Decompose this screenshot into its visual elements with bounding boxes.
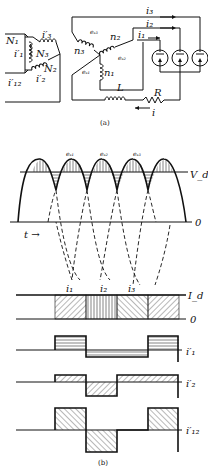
- primary-delta: N₁ N₃ N₂ i′₃ i′₁ i′₂ i′₁₂: [5, 29, 60, 102]
- label-ip12: i′₁₂: [8, 77, 22, 88]
- label-ip2-wave: i′₂: [186, 378, 195, 389]
- label-L: L: [116, 82, 124, 93]
- label-n1: n₁: [104, 67, 114, 78]
- label-N1: N₁: [5, 35, 19, 46]
- label-i: i: [152, 107, 155, 118]
- label-i2: i₂: [146, 18, 153, 29]
- label-vd: V_d: [190, 169, 208, 181]
- label-N3: N₃: [35, 48, 49, 59]
- label-zero-i: 0: [190, 314, 197, 325]
- label-ip3: i′₃: [42, 29, 51, 40]
- label-R: R: [153, 87, 162, 98]
- label-Id: I_d: [187, 290, 203, 302]
- rectifier-diagram: N₁ N₃ N₂ i′₃ i′₁ i′₂ i′₁₂: [0, 0, 208, 469]
- label-i1: i₁: [138, 29, 145, 40]
- caption-a: (a): [100, 119, 110, 127]
- label-es2: eₛ₂: [118, 54, 127, 61]
- label-i1-block: i₁: [66, 283, 73, 294]
- voltage-waveforms: eₛ₁ eₛ₂ eₛ₃ V_d 0 t →: [10, 150, 208, 285]
- label-i3-block: i₃: [128, 283, 135, 294]
- label-es3-wave: eₛ₃: [133, 150, 142, 157]
- label-ip12-wave: i′₁₂: [186, 425, 200, 436]
- label-zero-v: 0: [195, 217, 202, 228]
- label-es3: eₛ₃: [90, 28, 99, 35]
- label-ip1: i′₁: [14, 48, 23, 59]
- secondary-circuit: i₃ i₂ i₁ i n₃ n₂ n₁ eₛ₃ eₛ₂ eₛ₁ L R (a): [72, 5, 208, 127]
- label-es1: eₛ₁: [82, 68, 90, 75]
- label-i3: i₃: [146, 5, 153, 16]
- label-ip1-wave: i′₁: [186, 346, 195, 357]
- label-ip2: i′₂: [36, 73, 45, 84]
- current-waveforms: i₁ i₂ i₃ I_d 0 i′₁ i′₂ i′₁₂ (b): [16, 283, 203, 467]
- label-n2: n₂: [110, 31, 120, 42]
- label-es1-wave: eₛ₁: [66, 150, 74, 157]
- label-i2-block: i₂: [100, 283, 107, 294]
- caption-b: (b): [98, 459, 108, 467]
- label-es2-wave: eₛ₂: [100, 150, 109, 157]
- label-time: t →: [24, 229, 40, 240]
- label-n3: n₃: [74, 45, 84, 56]
